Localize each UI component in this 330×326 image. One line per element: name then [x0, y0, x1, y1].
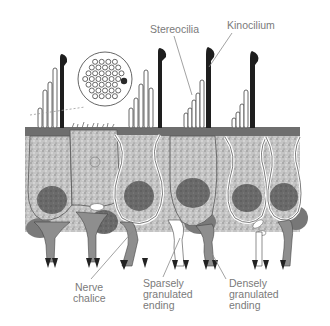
hair-cell-type2-left	[28, 136, 72, 220]
hair-cell-type1-chalice-3	[266, 137, 301, 220]
kinocilium	[206, 47, 214, 128]
hair-cell-type2-middle	[170, 136, 217, 226]
label-line: ending	[143, 299, 175, 311]
stereocilia-leader	[174, 36, 192, 95]
stereocilia	[184, 80, 204, 128]
label-densely-granulated-ending: Densely granulated ending	[229, 277, 282, 311]
kinocilium	[250, 51, 258, 128]
hair-cell-diagram: Stereocilia Kinocilium Nerve chalice Spa…	[0, 0, 330, 326]
hair-bundle-2	[129, 48, 166, 128]
hair-bundle-1	[38, 54, 67, 128]
hair-cell-center-left	[70, 130, 120, 207]
kinocilium-cross-section	[121, 78, 127, 84]
stereocilia	[129, 70, 153, 128]
nucleus	[176, 178, 210, 208]
label-line: chalice	[73, 292, 106, 304]
cuticular-plate	[25, 127, 300, 136]
nucleus	[270, 183, 298, 211]
nucleus	[37, 186, 67, 214]
nucleus	[124, 181, 154, 211]
hair-bundle-3	[184, 47, 214, 128]
kinocilium	[158, 48, 166, 128]
stereocilia	[38, 68, 57, 128]
hair-cell-type1-chalice-1	[115, 135, 163, 224]
label-line: ending	[229, 299, 261, 311]
nucleus	[232, 184, 262, 212]
hair-cell-type1-chalice-2	[225, 137, 267, 223]
label-sparsely-granulated-ending: Sparsely granulated ending	[143, 277, 196, 311]
label-nerve-chalice: Nerve chalice	[73, 281, 106, 304]
label-stereocilia: Stereocilia	[150, 23, 199, 35]
stereocilia	[232, 90, 248, 128]
hair-bundle-4	[232, 51, 258, 128]
kinocilium	[60, 54, 67, 128]
label-kinocilium: Kinocilium	[227, 19, 275, 31]
